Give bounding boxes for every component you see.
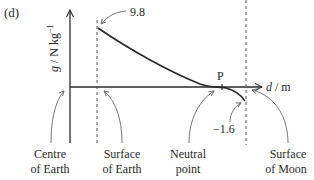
value-neg-1-6-label: −1.6 bbox=[213, 122, 235, 136]
annotation-surface-of-earth: Surface of Earth bbox=[103, 147, 142, 176]
part-label: (d) bbox=[4, 5, 19, 20]
pointer-neutral-point bbox=[189, 91, 214, 143]
svg-text:Surface: Surface bbox=[104, 147, 141, 161]
x-axis-label: d / m bbox=[266, 80, 291, 94]
pointer-centre-of-earth bbox=[51, 91, 64, 143]
svg-text:point: point bbox=[176, 162, 201, 176]
svg-text:Surface: Surface bbox=[270, 147, 307, 161]
annotation-centre-of-earth: Centre of Earth bbox=[31, 147, 70, 176]
svg-text:of Earth: of Earth bbox=[103, 162, 142, 176]
svg-text:Neutral: Neutral bbox=[170, 147, 207, 161]
neutral-point-label: P bbox=[217, 69, 224, 83]
gravity-field-diagram: (d) g / N kg−1 d / m P 9.8 −1.6 Centre o… bbox=[0, 0, 314, 180]
pointer-surface-of-earth bbox=[104, 91, 122, 143]
pointer-neg-1-6 bbox=[230, 103, 241, 122]
annotation-neutral-point: Neutral point bbox=[170, 147, 207, 176]
pointer-surface-of-moon bbox=[252, 90, 288, 143]
y-axis-label: g / N kg−1 bbox=[46, 24, 61, 72]
annotation-surface-of-moon: Surface of Moon bbox=[265, 147, 307, 176]
svg-text:Centre: Centre bbox=[34, 147, 66, 161]
value-9-8-label: 9.8 bbox=[130, 5, 145, 19]
pointer-9-8 bbox=[101, 11, 126, 24]
svg-text:of Earth: of Earth bbox=[31, 162, 70, 176]
svg-text:of Moon: of Moon bbox=[265, 162, 307, 176]
field-curve bbox=[98, 28, 245, 101]
